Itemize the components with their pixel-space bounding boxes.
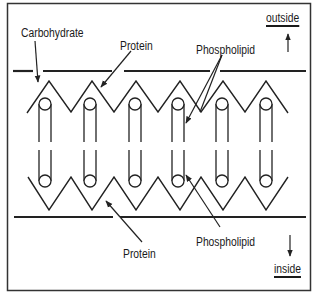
label-inside: inside <box>274 263 301 275</box>
label-phospholipid-bottom: Phospholipid <box>196 236 255 248</box>
label-outside: outside <box>266 12 299 24</box>
label-carbohydrate: Carbohydrate <box>21 27 84 39</box>
phospholipid-1 <box>39 98 51 187</box>
protein-top-arrow <box>101 51 131 87</box>
label-phospholipid-top: Phospholipid <box>196 44 255 56</box>
phospholipid-4 <box>172 98 184 187</box>
phospholipid-6 <box>260 98 272 187</box>
label-protein-bottom: Protein <box>123 248 156 260</box>
phospholipid-columns <box>39 98 272 187</box>
top-protein-zigzag <box>27 81 288 113</box>
protein-bottom-arrow <box>106 201 142 242</box>
phospholipid-2 <box>84 98 96 187</box>
phospholipid-bottom-arrow <box>186 175 220 227</box>
membrane-diagram <box>0 0 317 294</box>
bottom-protein-zigzag <box>28 177 288 210</box>
label-protein-top: Protein <box>120 40 153 52</box>
phospholipid-3 <box>129 98 141 187</box>
frame-border <box>8 4 311 291</box>
phospholipid-5 <box>216 98 228 187</box>
carbohydrate-arrow <box>35 41 38 82</box>
